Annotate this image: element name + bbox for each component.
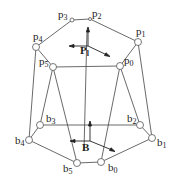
joint-b5 bbox=[74, 160, 81, 167]
joint-b4 bbox=[26, 137, 33, 144]
label-p3: p3 bbox=[58, 8, 68, 22]
joint-p1 bbox=[135, 39, 142, 46]
label-b2: b2 bbox=[127, 112, 137, 126]
joint-b3 bbox=[37, 122, 44, 129]
label-b1: b1 bbox=[157, 136, 167, 150]
joint-b2 bbox=[137, 122, 144, 129]
label-p5: p5 bbox=[39, 55, 49, 69]
leg-p5-b5 bbox=[53, 67, 77, 163]
joint-p5 bbox=[50, 64, 57, 71]
base-polygon bbox=[29, 125, 152, 163]
joint-p3 bbox=[70, 18, 74, 22]
label-p0: p0 bbox=[124, 54, 134, 68]
joint-b1 bbox=[149, 135, 156, 142]
label-b4: b4 bbox=[15, 134, 25, 148]
joint-p0 bbox=[117, 63, 124, 70]
label-p1: p1 bbox=[136, 25, 146, 39]
platform-frame-axes-icon bbox=[69, 27, 110, 57]
joint-p4 bbox=[33, 44, 40, 51]
leg-p4-b4 bbox=[29, 47, 36, 140]
label-b0: b0 bbox=[108, 161, 118, 175]
label-b3: b3 bbox=[46, 112, 56, 126]
base-frame-label: B bbox=[82, 141, 90, 153]
leg-p0-b0 bbox=[101, 66, 120, 162]
label-p2: p2 bbox=[92, 7, 102, 21]
base-joints bbox=[26, 122, 156, 167]
stewart-platform-diagram: Pl B p0 p1 p2 p3 p4 p5 b0 b1 b2 b3 b4 b5 bbox=[0, 0, 173, 181]
label-b5: b5 bbox=[63, 162, 73, 176]
label-p4: p4 bbox=[33, 30, 43, 44]
joint-b0 bbox=[98, 159, 105, 166]
